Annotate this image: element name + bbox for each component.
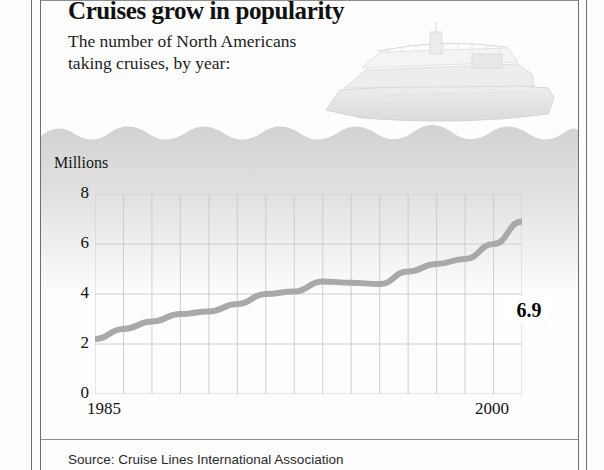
header-block: Cruises grow in popularity The number of…: [68, 0, 398, 74]
y-axis-tick-6: 6: [49, 233, 89, 253]
chart-container: Millions 02468 1985 2000 6.9 2.2: [41, 118, 578, 430]
border-rule-left-outer: [31, 0, 32, 470]
page-subtitle: The number of North Americans taking cru…: [68, 31, 398, 74]
infographic-page: Cruises grow in popularity The number of…: [0, 0, 604, 470]
source-divider-rule: [41, 439, 578, 440]
border-rule-right-inner: [578, 0, 579, 470]
y-axis-tick-2: 2: [49, 333, 89, 353]
y-axis-tick-4: 4: [49, 283, 89, 303]
border-rule-right-outer: [586, 0, 587, 470]
y-axis-tick-0: 0: [49, 383, 89, 403]
plot-area: [95, 194, 522, 394]
subtitle-line-2: taking cruises, by year:: [68, 53, 398, 75]
y-axis-tick-8: 8: [49, 183, 89, 203]
subtitle-line-1: The number of North Americans: [68, 31, 398, 53]
callout-fold-corner: [541, 312, 553, 324]
y-axis-title: Millions: [54, 154, 108, 172]
page-title: Cruises grow in popularity: [68, 0, 398, 26]
source-note: Source: Cruise Lines International Assoc…: [68, 452, 343, 467]
x-axis-label-start: 1985: [87, 399, 121, 419]
x-axis-label-end: 2000: [475, 399, 509, 419]
